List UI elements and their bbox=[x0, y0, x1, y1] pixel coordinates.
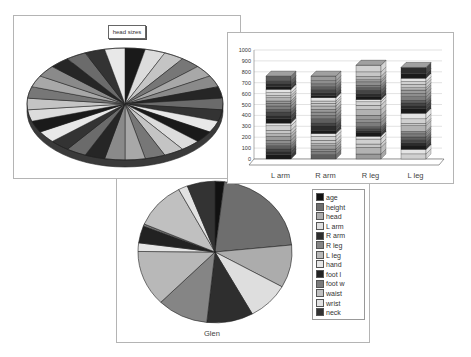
legend-label: hand bbox=[326, 261, 342, 268]
legend-label: neck bbox=[326, 309, 341, 316]
legend-swatch bbox=[316, 289, 324, 297]
legend-swatch bbox=[316, 212, 324, 220]
legend-label: foot w bbox=[326, 280, 345, 287]
legend-item: R arm bbox=[316, 231, 345, 241]
legend-item: wrist bbox=[316, 299, 340, 309]
legend-swatch bbox=[316, 260, 324, 268]
legend-item: foot l bbox=[316, 270, 341, 280]
legend-swatch bbox=[316, 280, 324, 288]
stacked-bar-chart: 01002003004005006007008009001000L armR a… bbox=[228, 33, 455, 185]
legend-swatch bbox=[316, 270, 324, 278]
legend-label: head bbox=[326, 213, 342, 220]
legend-swatch bbox=[316, 308, 324, 316]
y-tick-label: 0 bbox=[248, 156, 251, 162]
legend-item: neck bbox=[316, 308, 341, 318]
legend-item: L leg bbox=[316, 251, 341, 261]
x-category-label: L leg bbox=[408, 171, 424, 180]
legend-label: L arm bbox=[326, 223, 344, 230]
legend-item: R leg bbox=[316, 241, 342, 251]
legend-item: L arm bbox=[316, 222, 344, 232]
head-sizes-chart-window[interactable]: head sizes bbox=[13, 15, 241, 179]
x-category-label: R arm bbox=[315, 171, 335, 180]
y-tick-label: 1000 bbox=[239, 47, 251, 53]
legend-swatch bbox=[316, 251, 324, 259]
legend-label: R arm bbox=[326, 232, 345, 239]
legend-item: hand bbox=[316, 260, 342, 270]
legend-item: age bbox=[316, 193, 338, 203]
legend-swatch bbox=[316, 232, 324, 240]
y-tick-label: 600 bbox=[242, 91, 251, 97]
y-tick-label: 700 bbox=[242, 80, 251, 86]
legend-swatch bbox=[316, 193, 324, 201]
x-category-label: R leg bbox=[362, 171, 380, 180]
legend-swatch bbox=[316, 222, 324, 230]
pie-slice-height bbox=[215, 182, 292, 252]
legend-item: waist bbox=[316, 289, 342, 299]
legend-label: wrist bbox=[326, 300, 340, 307]
pie-label: Glen bbox=[204, 329, 220, 338]
legend-label: height bbox=[326, 204, 345, 211]
y-tick-label: 200 bbox=[242, 134, 251, 140]
legend-label: age bbox=[326, 194, 338, 201]
legend-swatch bbox=[316, 241, 324, 249]
stacked-bar-chart-window[interactable]: 01002003004005006007008009001000L armR a… bbox=[227, 32, 454, 184]
chart-legend: ageheightheadL armR armR legL leghandfoo… bbox=[312, 189, 365, 320]
legend-item: head bbox=[316, 212, 342, 222]
legend-label: L leg bbox=[326, 252, 341, 259]
y-tick-label: 900 bbox=[242, 58, 251, 64]
legend-swatch bbox=[316, 203, 324, 211]
y-tick-label: 400 bbox=[242, 112, 251, 118]
legend-label: foot l bbox=[326, 271, 341, 278]
y-tick-label: 300 bbox=[242, 123, 251, 129]
y-tick-label: 500 bbox=[242, 102, 251, 108]
legend-item: foot w bbox=[316, 279, 345, 289]
head-sizes-pie bbox=[14, 16, 242, 180]
legend-label: R leg bbox=[326, 242, 342, 249]
legend-item: height bbox=[316, 203, 345, 213]
legend-label: waist bbox=[326, 290, 342, 297]
x-category-label: L arm bbox=[271, 171, 290, 180]
y-tick-label: 100 bbox=[242, 145, 251, 151]
legend-swatch bbox=[316, 299, 324, 307]
y-tick-label: 800 bbox=[242, 69, 251, 75]
chart-title: head sizes bbox=[108, 25, 146, 39]
glen-pie-chart-window[interactable]: Glen ageheightheadL armR armR legL legha… bbox=[116, 178, 370, 343]
